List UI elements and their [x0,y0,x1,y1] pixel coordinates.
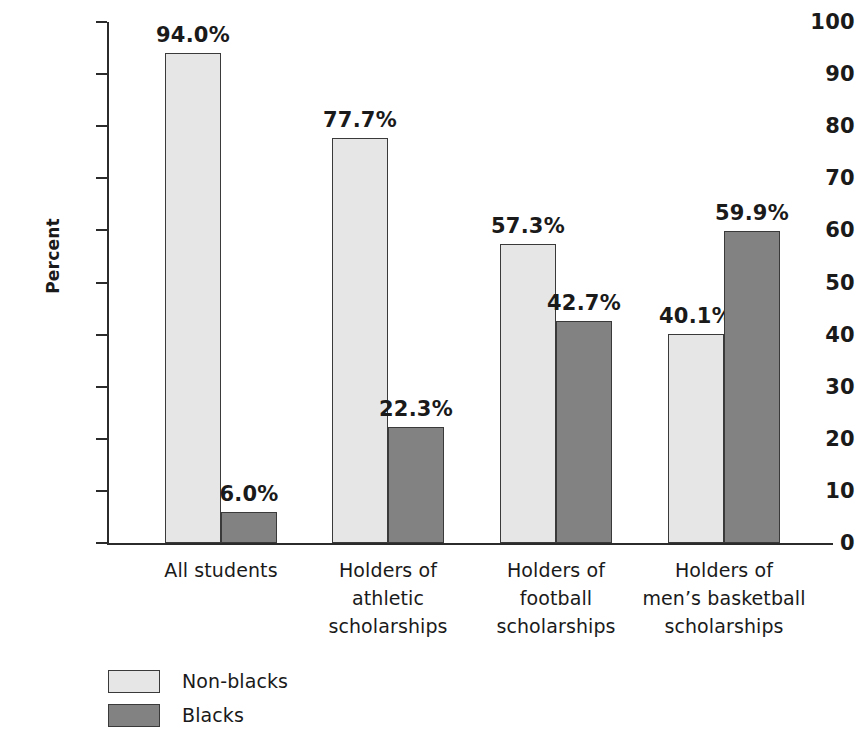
y-axis-tick-label: 100 [767,10,855,34]
bar-value-label: 59.9% [704,201,800,225]
x-axis-line [107,543,833,545]
y-axis-tick [96,438,107,440]
bar-blacks-1[interactable] [388,427,444,543]
category-label-line: All students [126,556,316,584]
category-label-0: All students [126,556,316,584]
y-axis-tick-label: 90 [767,62,855,86]
category-label-line: athletic [293,584,483,612]
y-axis-tick-label: 80 [767,114,855,138]
y-axis-tick [96,334,107,336]
y-axis-line [107,22,109,544]
y-axis-tick [96,229,107,231]
bar-non-blacks-1[interactable] [332,138,388,543]
bar-value-label: 57.3% [480,214,576,238]
category-label-line: scholarships [293,612,483,640]
legend-swatch-dark [108,704,160,727]
y-axis-tick [96,125,107,127]
bar-blacks-2[interactable] [556,321,612,543]
bar-non-blacks-3[interactable] [668,334,724,543]
legend-swatch-light [108,670,160,693]
category-label-line: football [461,584,651,612]
y-axis-tick [96,177,107,179]
y-axis-tick-label: 10 [767,479,855,503]
bar-value-label: 42.7% [536,291,632,315]
bar-non-blacks-0[interactable] [165,53,221,543]
category-label-line: Holders of [293,556,483,584]
bar-blacks-3[interactable] [724,231,780,543]
legend: Non-blacksBlacks [108,664,288,732]
bar-blacks-0[interactable] [221,512,277,543]
y-axis-tick [96,282,107,284]
legend-label: Non-blacks [182,670,288,692]
bar-value-label: 94.0% [145,23,241,47]
y-axis-tick-label: 20 [767,427,855,451]
category-label-3: Holders ofmen’s basketballscholarships [629,556,819,640]
legend-item-non-blacks[interactable]: Non-blacks [108,664,288,698]
y-axis-tick [96,21,107,23]
category-label-line: scholarships [629,612,819,640]
y-axis-tick-label: 50 [767,271,855,295]
bar-value-label: 77.7% [312,108,408,132]
y-axis-tick-label: 70 [767,166,855,190]
bar-non-blacks-2[interactable] [500,244,556,543]
category-label-line: men’s basketball [629,584,819,612]
category-label-1: Holders ofathleticscholarships [293,556,483,640]
bar-value-label: 6.0% [201,482,297,506]
bar-chart: Percent 1009080706050403020100 94.0%77.7… [0,0,855,743]
y-axis-tick-label: 30 [767,375,855,399]
y-axis-tick [96,73,107,75]
y-axis-tick [96,542,107,544]
y-axis-tick-label: 40 [767,323,855,347]
legend-item-blacks[interactable]: Blacks [108,698,288,732]
category-label-line: Holders of [629,556,819,584]
category-label-2: Holders offootballscholarships [461,556,651,640]
y-axis-tick [96,386,107,388]
category-label-line: Holders of [461,556,651,584]
y-axis-tick [96,490,107,492]
legend-label: Blacks [182,704,244,726]
category-label-line: scholarships [461,612,651,640]
bar-value-label: 22.3% [368,397,464,421]
y-axis-title: Percent [43,211,63,301]
